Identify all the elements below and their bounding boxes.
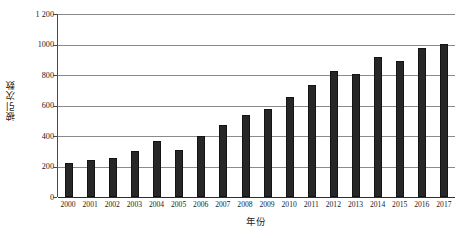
x-axis-tick-label: 2007 bbox=[212, 199, 234, 213]
bar-slot bbox=[212, 14, 234, 197]
y-axis-tick-label: 400 bbox=[18, 132, 54, 141]
x-axis-tick-label: 2016 bbox=[411, 199, 433, 213]
x-axis-tick-label: 2008 bbox=[234, 199, 256, 213]
bar-slot bbox=[345, 14, 367, 197]
y-axis-tick-label: 600 bbox=[18, 101, 54, 110]
bar-slot bbox=[367, 14, 389, 197]
bar-slot bbox=[323, 14, 345, 197]
x-axis-tick-label: 2005 bbox=[168, 199, 190, 213]
y-axis-tick-labels: 020040060080010001 200 bbox=[18, 0, 54, 205]
x-axis-tick-label: 2010 bbox=[278, 199, 300, 213]
x-axis-tick-label: 2014 bbox=[367, 199, 389, 213]
bar-slot bbox=[411, 14, 433, 197]
bar bbox=[352, 74, 360, 197]
x-axis-tick-label: 2015 bbox=[389, 199, 411, 213]
bar bbox=[308, 85, 316, 197]
y-axis-tick-label: 1000 bbox=[18, 40, 54, 49]
bar bbox=[65, 163, 73, 197]
y-axis-tick-label: 200 bbox=[18, 162, 54, 171]
x-axis-tick-label: 2001 bbox=[79, 199, 101, 213]
bar bbox=[131, 151, 139, 197]
y-axis-title-label: 被引次数 bbox=[6, 79, 16, 121]
bar-slot bbox=[279, 14, 301, 197]
bar bbox=[87, 160, 95, 197]
plot-area bbox=[57, 14, 455, 197]
y-axis-tick-label: 0 bbox=[18, 193, 54, 202]
x-axis-tick-labels: 2000200120022003200420052006200720082009… bbox=[57, 199, 455, 213]
x-axis-tick-label: 2017 bbox=[433, 199, 455, 213]
x-axis-tick-label: 2004 bbox=[145, 199, 167, 213]
bar bbox=[175, 150, 183, 197]
y-axis-tick-label: 1 200 bbox=[18, 10, 54, 19]
bar bbox=[418, 48, 426, 197]
bar-slot bbox=[58, 14, 80, 197]
bar-slot bbox=[235, 14, 257, 197]
y-axis-tick-marks bbox=[53, 14, 58, 197]
bar bbox=[197, 136, 205, 197]
bar-slot bbox=[124, 14, 146, 197]
y-axis-tick-mark bbox=[53, 75, 57, 76]
x-axis-tick-label: 2012 bbox=[322, 199, 344, 213]
x-axis-tick-label: 2009 bbox=[256, 199, 278, 213]
bar-slot bbox=[190, 14, 212, 197]
bar bbox=[219, 125, 227, 197]
x-axis-baseline bbox=[58, 197, 455, 198]
bar bbox=[330, 71, 338, 197]
bars-layer bbox=[58, 14, 455, 197]
bar-slot bbox=[433, 14, 455, 197]
bar bbox=[396, 61, 404, 197]
bar-slot bbox=[301, 14, 323, 197]
bar-slot bbox=[257, 14, 279, 197]
y-axis-tick-mark bbox=[53, 14, 57, 15]
bar bbox=[264, 109, 272, 197]
y-axis-tick-mark bbox=[53, 197, 57, 198]
x-axis-tick-label: 2011 bbox=[300, 199, 322, 213]
bar bbox=[374, 57, 382, 197]
bar-slot bbox=[80, 14, 102, 197]
y-axis-tick-mark bbox=[53, 136, 57, 137]
y-axis-tick-mark bbox=[53, 45, 57, 46]
x-axis-tick-label: 2003 bbox=[123, 199, 145, 213]
x-axis-tick-label: 2000 bbox=[57, 199, 79, 213]
x-axis-tick-label: 2006 bbox=[190, 199, 212, 213]
bar-slot bbox=[102, 14, 124, 197]
y-axis-tick-mark bbox=[53, 106, 57, 107]
x-axis-tick-label: 2013 bbox=[344, 199, 366, 213]
bar-slot bbox=[146, 14, 168, 197]
bar-slot bbox=[168, 14, 190, 197]
y-axis-tick-label: 800 bbox=[18, 71, 54, 80]
x-axis-tick-label: 2002 bbox=[101, 199, 123, 213]
citation-count-bar-chart: 被引次数 020040060080010001 200 200020012002… bbox=[0, 0, 464, 238]
bar-slot bbox=[389, 14, 411, 197]
bar bbox=[153, 141, 161, 197]
x-axis-title: 年份 bbox=[57, 214, 455, 228]
bar bbox=[440, 44, 448, 197]
bar bbox=[286, 97, 294, 197]
y-axis-tick-mark bbox=[53, 167, 57, 168]
bar bbox=[109, 158, 117, 197]
bar bbox=[242, 115, 250, 197]
